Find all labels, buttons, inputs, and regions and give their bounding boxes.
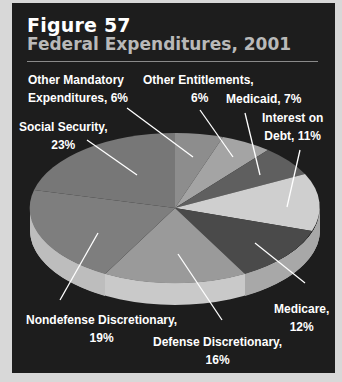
label-other-mandatory: Other Mandatory Expenditures, 6% (28, 71, 128, 107)
label-interest-on-debt: Interest on Debt, 11% (262, 109, 323, 145)
label-defense-discretionary: Defense Discretionary, 16% (153, 333, 282, 369)
label-medicaid: Medicaid, 7% (226, 90, 301, 108)
label-medicare: Medicare, 12% (274, 300, 329, 336)
label-social-security: Social Security, 23% (19, 118, 107, 154)
